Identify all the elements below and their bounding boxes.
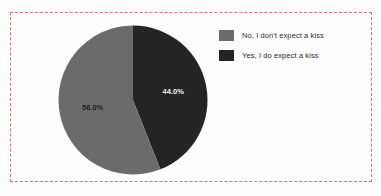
legend-label-yes: Yes, I do expect a kiss	[242, 50, 319, 61]
legend-item-yes[interactable]: Yes, I do expect a kiss	[219, 45, 364, 65]
pie-chart-plot-area: 44.0% 56.0%	[58, 25, 208, 175]
chart-legend: No, I don't expect a kiss Yes, I do expe…	[219, 25, 364, 65]
pie-chart-svg: 44.0% 56.0%	[58, 25, 208, 175]
pie-slice-label-yes: 44.0%	[163, 87, 185, 96]
chart-title-clipped	[0, 0, 381, 2]
legend-swatch-yes	[219, 50, 234, 61]
legend-swatch-no	[219, 30, 234, 41]
pie-chart-figure: 44.0% 56.0% No, I don't expect a kiss Ye…	[0, 0, 381, 196]
legend-item-no[interactable]: No, I don't expect a kiss	[219, 25, 364, 45]
legend-label-no: No, I don't expect a kiss	[242, 30, 324, 41]
pie-slice-label-no: 56.0%	[82, 103, 104, 112]
